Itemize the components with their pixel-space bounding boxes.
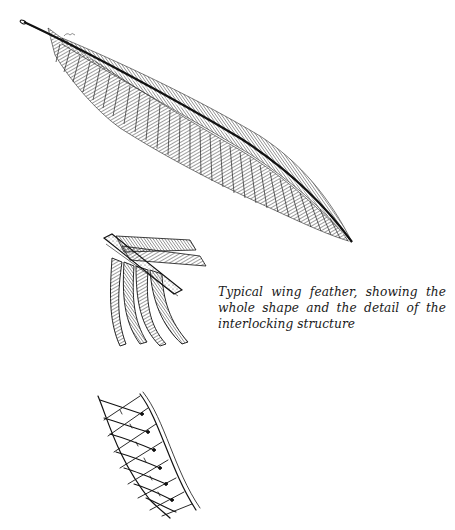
illustration-page: Typical wing feather, showing the whole …: [0, 0, 455, 530]
figure-caption: Typical wing feather, showing the whole …: [218, 284, 446, 332]
wing-feather-drawing: [20, 19, 352, 242]
interlocking-detail-drawing: [98, 392, 200, 518]
barb-detail-drawing: [104, 234, 206, 346]
feather-illustrations: [0, 0, 455, 530]
